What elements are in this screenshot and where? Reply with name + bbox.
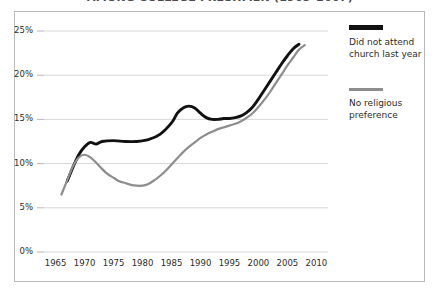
y-tick-label: 5% (0, 202, 33, 212)
legend-entry-did-not-attend-church: Did not attendchurch last year (349, 25, 435, 60)
y-tick-label: 10% (0, 158, 33, 168)
y-tick-label: 20% (0, 69, 33, 79)
legend-entry-no-religious-preference: No religiouspreference (349, 88, 435, 121)
gridlines (44, 31, 328, 252)
x-tick-label: 2010 (296, 258, 336, 268)
y-tick-label: 25% (0, 25, 33, 35)
series-line-1 (67, 44, 299, 181)
chart-figure: AMONG COLLEGE FRESHMEN (1965–2007) 25%20… (0, 0, 440, 294)
legend-label-no-religious-preference: No religiouspreference (349, 97, 435, 121)
y-tick-marks (37, 31, 44, 252)
legend-label-did-not-attend-church: Did not attendchurch last year (349, 36, 435, 60)
legend-swatch-gray (349, 88, 383, 91)
legend-swatch-black (349, 25, 383, 30)
y-tick-label: 0% (0, 246, 33, 256)
y-tick-label: 15% (0, 113, 33, 123)
